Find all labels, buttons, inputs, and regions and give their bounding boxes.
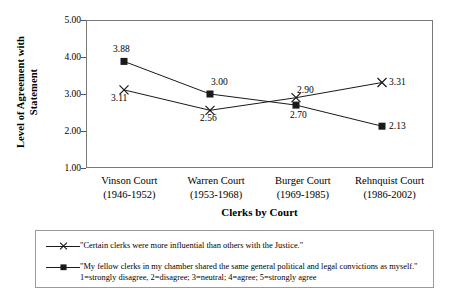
line-chart: Level of Agreement with Statement 5.00 4… (0, 0, 451, 302)
chart-legend: "Certain clerks were more influential th… (35, 230, 434, 288)
point-label-x-rehnquist: 3.31 (389, 77, 406, 87)
y-tick-label-2: 2.00 (64, 126, 81, 136)
y-tick-mark-1 (81, 168, 86, 169)
y-tick-label-5: 5.00 (64, 15, 81, 25)
plot-area (86, 20, 433, 168)
y-tick-label-3: 3.00 (64, 89, 81, 99)
x-category-vinson: Vinson Court (1946-1952) (86, 174, 173, 208)
x-category-burger-name: Burger Court (260, 174, 347, 188)
legend-label-square-series: "My fellow clerks in my chamber shared t… (80, 261, 418, 272)
x-category-warren-years: (1953-1968) (173, 188, 260, 202)
y-axis-title-line2: Statement (27, 36, 40, 148)
x-category-vinson-name: Vinson Court (86, 174, 173, 188)
square-marker-icon (59, 262, 68, 272)
legend-label-square-block: "My fellow clerks in my chamber shared t… (80, 261, 418, 283)
x-axis-title: Clerks by Court (86, 206, 433, 219)
x-category-burger-years: (1969-1985) (260, 188, 347, 202)
x-marker-icon (59, 241, 68, 251)
x-category-vinson-years: (1946-1952) (86, 188, 173, 202)
point-label-squares-warren: 3.00 (211, 77, 228, 87)
legend-entry-square-series: "My fellow clerks in my chamber shared t… (46, 261, 418, 283)
legend-scale-note: 1=strongly disagree, 2=disagree; 3=neutr… (80, 272, 418, 283)
y-tick-label-4: 4.00 (64, 52, 81, 62)
x-category-warren-name: Warren Court (173, 174, 260, 188)
point-label-squares-rehnquist: 2.13 (389, 121, 406, 131)
point-label-x-vinson: 3.11 (111, 93, 127, 103)
point-label-squares-burger: 2.70 (290, 110, 307, 120)
x-category-rehnquist-years: (1986-2002) (346, 188, 433, 202)
x-axis-category-labels: Vinson Court (1946-1952) Warren Court (1… (86, 174, 433, 208)
x-category-warren: Warren Court (1953-1968) (173, 174, 260, 208)
point-label-x-warren: 2.56 (200, 113, 217, 123)
legend-key-square-icon (46, 262, 80, 273)
legend-key-x-icon (46, 241, 80, 252)
legend-label-x-series: "Certain clerks were more influential th… (80, 240, 303, 251)
y-axis-title: Level of Agreement with Statement (4, 12, 50, 172)
y-tick-label-1: 1.00 (64, 163, 81, 173)
y-axis-title-line1: Level of Agreement with (14, 36, 27, 148)
point-label-x-burger: 2.90 (297, 85, 314, 95)
x-category-burger: Burger Court (1969-1985) (260, 174, 347, 208)
point-label-squares-vinson: 3.88 (113, 44, 130, 54)
x-category-rehnquist-name: Rehnquist Court (346, 174, 433, 188)
legend-entry-x-series: "Certain clerks were more influential th… (46, 240, 303, 252)
x-category-rehnquist: Rehnquist Court (1986-2002) (346, 174, 433, 208)
